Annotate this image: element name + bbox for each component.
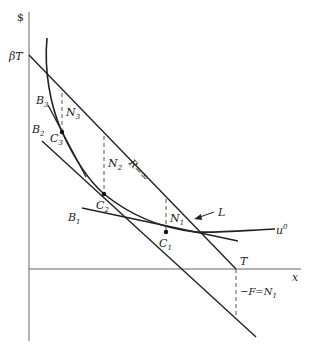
indifference-curve-u0 bbox=[46, 38, 275, 232]
gap-n2-label: N2 bbox=[108, 158, 122, 172]
gap-n3-sub: 3 bbox=[76, 113, 80, 121]
bottom-gap-label-prefix: −F=N bbox=[240, 286, 272, 297]
utility-curve-label: u0 bbox=[276, 224, 288, 236]
utility-curve-label-sup: 0 bbox=[283, 223, 287, 231]
tangent-b3-base: B bbox=[36, 94, 44, 107]
gap-n2-sub: 2 bbox=[118, 164, 122, 172]
tangent-b1-base: B bbox=[68, 211, 76, 224]
point-c3-sub: 3 bbox=[58, 139, 62, 147]
tangent-b2-sub: 2 bbox=[40, 130, 44, 138]
y-axis-label: $ bbox=[17, 12, 24, 23]
bottom-gap-label-sub: 1 bbox=[272, 292, 276, 300]
arrow-label: L bbox=[218, 207, 225, 218]
tangent-b2-label: B2 bbox=[32, 124, 45, 138]
budget-line-lower bbox=[42, 141, 256, 337]
tangent-b3-sub: 3 bbox=[44, 101, 48, 109]
bottom-gap-label: −F=N1 bbox=[240, 287, 277, 300]
gap-n1-label: N1 bbox=[170, 213, 184, 227]
x-axis-label: x bbox=[292, 272, 298, 283]
point-c1-label: C1 bbox=[159, 238, 172, 252]
x-intercept-label: T bbox=[240, 256, 247, 267]
point-c1-sub: 1 bbox=[167, 244, 171, 252]
tangent-b3-label: B3 bbox=[36, 95, 49, 109]
y-intercept-label: βT bbox=[9, 51, 23, 62]
gap-n2-base: N bbox=[108, 157, 118, 170]
diagram-canvas: $ βT x T R=∞ L u0 −F=N1 C1 C2 C3 B1 B2 B… bbox=[0, 0, 316, 352]
point-c2-label: C2 bbox=[96, 200, 109, 214]
tangent-b2-base: B bbox=[32, 123, 40, 136]
point-c3-label: C3 bbox=[50, 133, 63, 147]
arrow-l-head bbox=[194, 214, 202, 220]
tangent-b1-label: B1 bbox=[68, 212, 81, 226]
gap-n1-base: N bbox=[170, 212, 180, 225]
gap-n1-sub: 1 bbox=[180, 219, 184, 227]
tangent-b1-sub: 1 bbox=[76, 218, 80, 226]
point-c1 bbox=[164, 230, 168, 234]
gap-n3-label: N3 bbox=[66, 107, 80, 121]
point-c2 bbox=[102, 192, 106, 196]
point-c2-sub: 2 bbox=[104, 206, 108, 214]
gap-n3-base: N bbox=[66, 106, 76, 119]
